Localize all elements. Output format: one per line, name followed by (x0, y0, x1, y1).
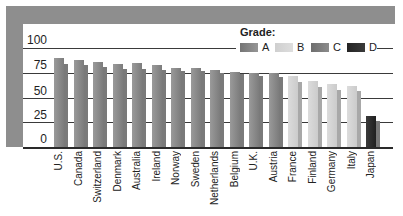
bar-germany (327, 84, 337, 148)
y-tick-50: 50 (17, 85, 47, 97)
x-label-sweden: Sweden (191, 151, 201, 187)
x-label-canada: Canada (74, 151, 84, 186)
bar-finland (308, 81, 318, 148)
bar-japan (366, 116, 376, 148)
bar-back-denmark (123, 69, 127, 147)
bar-back-australia (142, 69, 146, 147)
bar-switzerland (93, 62, 103, 147)
legend-label-c: C (333, 42, 341, 53)
x-label-belgium: Belgium (230, 151, 240, 187)
x-label-ireland: Ireland (152, 151, 162, 182)
bar-italy (347, 86, 357, 148)
grade-bar-chart: 100 75 50 25 0 U.S.CanadaSwitzerlandDenm… (0, 0, 403, 216)
legend-swatch-c (311, 43, 329, 52)
x-label-norway: Norway (171, 151, 181, 185)
bar-canada (74, 60, 84, 147)
bar-back-italy (357, 91, 361, 148)
y-tick-100: 100 (17, 34, 47, 46)
bar-back-norway (181, 71, 185, 147)
bar-back-germany (337, 90, 341, 148)
legend-swatch-b (275, 43, 293, 52)
x-label-australia: Australia (132, 151, 142, 190)
x-label-switzerland: Switzerland (93, 151, 103, 203)
bar-netherlands (210, 70, 220, 147)
legend-swatch-d (347, 43, 365, 52)
legend: Grade: A B C D (236, 26, 377, 54)
bar-sweden (191, 68, 201, 147)
bar-back-canada (84, 65, 88, 147)
bar-back-sweden (201, 71, 205, 147)
bar-norway (171, 68, 181, 147)
bar-back-finland (318, 87, 322, 148)
x-label-u-s: U.S. (54, 151, 64, 170)
bar-austria (269, 73, 279, 147)
y-tick-75: 75 (17, 59, 47, 71)
x-label-u-k: U.K. (249, 151, 259, 170)
legend-swatch-a (240, 43, 258, 52)
x-label-finland: Finland (308, 151, 318, 184)
x-label-netherlands: Netherlands (210, 151, 220, 205)
bar-australia (132, 63, 142, 147)
bar-back-japan (376, 121, 380, 147)
bar-back-ireland (162, 70, 166, 147)
bar-u-s (54, 58, 64, 147)
bar-back-switzerland (103, 67, 107, 147)
bar-back-u-k (259, 76, 263, 147)
legend-title: Grade: (240, 26, 275, 38)
x-label-japan: Japan (366, 151, 376, 178)
legend-label-d: D (369, 42, 377, 53)
x-label-denmark: Denmark (113, 151, 123, 192)
bar-back-france (298, 82, 302, 148)
legend-label-b: B (297, 42, 304, 53)
y-tick-25: 25 (17, 109, 47, 121)
bar-back-belgium (240, 74, 244, 147)
bar-back-austria (279, 77, 283, 148)
bar-back-u-s (64, 64, 68, 147)
bar-belgium (230, 72, 240, 147)
gridline-100-tail (377, 48, 393, 49)
bar-denmark (113, 64, 123, 147)
bar-ireland (152, 65, 162, 147)
x-label-germany: Germany (327, 151, 337, 192)
chart-frame-top (6, 6, 395, 24)
x-label-italy: Italy (347, 151, 357, 169)
legend-label-a: A (262, 42, 269, 53)
bar-france (288, 76, 298, 147)
bar-u-k (249, 73, 259, 147)
x-label-austria: Austria (269, 151, 279, 182)
bar-back-netherlands (220, 73, 224, 147)
x-axis-baseline (23, 147, 393, 149)
y-tick-0: 0 (17, 133, 47, 145)
x-label-france: France (288, 151, 298, 182)
